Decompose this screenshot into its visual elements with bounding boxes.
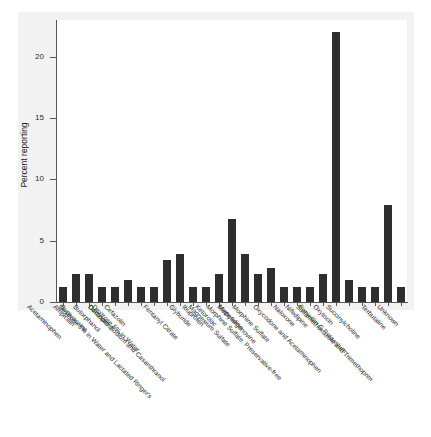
bar [163, 260, 171, 302]
bar [293, 287, 301, 302]
bar [267, 268, 275, 302]
x-tick-mark [310, 303, 311, 306]
x-tick-mark [245, 303, 246, 306]
bar [319, 274, 327, 302]
bar [189, 287, 197, 302]
bar [228, 219, 236, 302]
bar [137, 287, 145, 302]
x-tick-mark [323, 303, 324, 306]
bar [150, 287, 158, 302]
bar [202, 287, 210, 302]
x-tick-mark [115, 303, 116, 306]
bar [124, 280, 132, 302]
bar [72, 274, 80, 302]
bar [85, 274, 93, 302]
x-tick-mark [180, 303, 181, 306]
bar [59, 287, 67, 302]
bar [241, 254, 249, 302]
x-tick-mark [271, 303, 272, 306]
bar [254, 274, 262, 302]
y-tick-label: 10 [0, 174, 44, 183]
x-tick-mark [375, 303, 376, 306]
y-tick-label: 15 [0, 113, 44, 122]
bar [280, 287, 288, 302]
x-tick-mark [102, 303, 103, 306]
x-tick-mark [388, 303, 389, 306]
bar [306, 287, 314, 302]
x-tick-mark [401, 303, 402, 306]
y-tick-label: 0 [0, 297, 44, 306]
chart-figure: Percent reporting 05101520 Acetaminophen… [0, 0, 431, 437]
bar [176, 254, 184, 302]
bar [332, 32, 340, 302]
x-tick-mark [128, 303, 129, 306]
x-tick-mark [167, 303, 168, 306]
bar [98, 287, 106, 302]
bar [345, 280, 353, 302]
x-tick-mark [141, 303, 142, 306]
bar [397, 287, 405, 302]
bar [358, 287, 366, 302]
bar [384, 205, 392, 302]
x-tick-mark [349, 303, 350, 306]
y-tick-label: 20 [0, 52, 44, 61]
bar-series [57, 20, 407, 302]
bar [215, 274, 223, 302]
x-tick-mark [336, 303, 337, 306]
bar [111, 287, 119, 302]
y-tick-label: 5 [0, 236, 44, 245]
x-tick-mark [154, 303, 155, 306]
bar [371, 287, 379, 302]
